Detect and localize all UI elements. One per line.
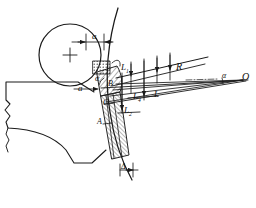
label-length-l4-sub: 4 [138, 97, 141, 103]
label-gap-a-lower: a [78, 84, 83, 93]
label-length-l: L [154, 90, 159, 99]
label-length-l2-sub: 2 [129, 111, 132, 117]
drawing-canvas: a a α α R L1 L4 L L2 Δ A B C O [0, 0, 256, 208]
label-point-c: C [103, 99, 108, 107]
label-length-l1-sub: 1 [126, 68, 129, 74]
casting-outline [5, 82, 106, 163]
label-point-b: B [108, 80, 113, 88]
wheel-centre-cross [63, 48, 77, 62]
axis-line-o-lower [104, 81, 246, 104]
figure-svg [0, 0, 256, 208]
label-point-a: A [97, 118, 102, 126]
label-angle-alpha-left: α [95, 75, 99, 83]
label-length-l4: L4 [133, 92, 141, 103]
casting-left-edge [6, 128, 9, 152]
label-gap-a-top: a [92, 32, 97, 41]
label-length-l2: L2 [124, 106, 132, 117]
centreline-o [186, 79, 218, 80]
dimension-rail-upper [116, 57, 208, 78]
label-radius-r: R [176, 62, 182, 72]
radial-lines-to-o [106, 80, 243, 102]
burr-curl [112, 60, 120, 66]
label-angle-alpha-right: α [222, 72, 226, 80]
label-delta: Δ [121, 163, 126, 171]
label-centre-o: O [242, 72, 249, 82]
label-length-l1: L1 [121, 63, 129, 74]
